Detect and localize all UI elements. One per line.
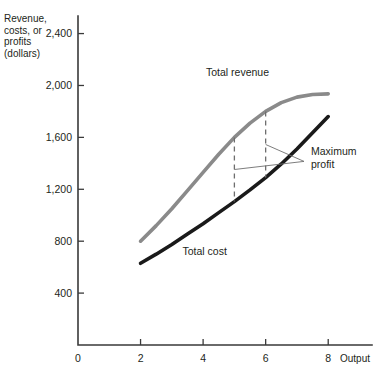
curves-group (141, 94, 329, 263)
y-tick-label: 1,600 (46, 131, 72, 143)
series-label-total-revenue: Total revenue (206, 66, 269, 78)
y-tick-label: 2,400 (46, 27, 72, 39)
annotation-leader (234, 161, 304, 169)
annotation-text-line: profit (311, 158, 334, 170)
y-axis-title-line: (dollars) (4, 48, 40, 59)
y-axis-title-line: costs, or (4, 25, 42, 36)
x-tick-label: 8 (325, 352, 331, 364)
x-tick-label: 4 (200, 352, 206, 364)
y-tick-label: 1,200 (46, 183, 72, 195)
x-axis-title: Output (340, 353, 370, 364)
y-tick-label: 800 (54, 235, 72, 247)
x-tick-label: 6 (263, 352, 269, 364)
y-axis-title-line: Revenue, (4, 13, 47, 24)
chart-canvas: 4008001,2001,6002,0002,40002468OutputRev… (0, 0, 386, 375)
y-tick-label: 2,000 (46, 79, 72, 91)
series-label-total-cost: Total cost (182, 245, 226, 257)
annotation-text-line: Maximum (311, 145, 357, 157)
x-tick-label: 0 (75, 352, 81, 364)
chart-figure: 4008001,2001,6002,0002,40002468OutputRev… (0, 0, 386, 375)
x-tick-label: 2 (138, 352, 144, 364)
y-axis-title-line: profits (4, 36, 31, 47)
y-tick-label: 400 (54, 287, 72, 299)
